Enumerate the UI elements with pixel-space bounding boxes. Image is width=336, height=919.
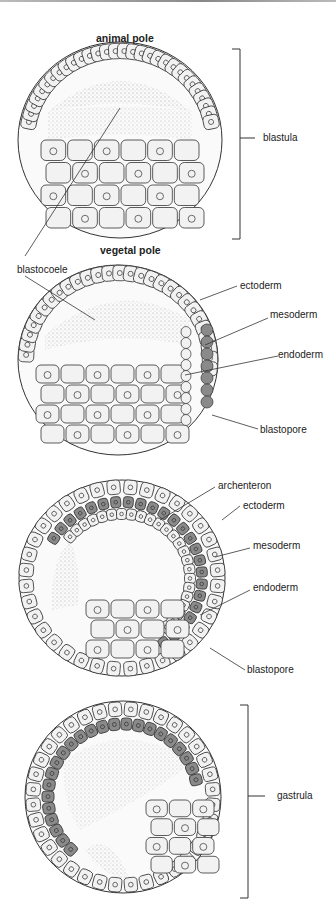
ectoderm-cell (26, 782, 41, 796)
vegetal-cell (161, 365, 184, 383)
vegetal-cell (153, 163, 178, 184)
endoderm-cell (181, 327, 191, 338)
mesoderm-cell (201, 348, 213, 360)
endoderm-cell (181, 360, 191, 371)
cell-membrane (189, 773, 203, 787)
yolk-cell (161, 640, 184, 658)
vegetal-cell (91, 425, 114, 443)
cell-membrane (124, 702, 138, 717)
mesoderm-cell (201, 324, 213, 336)
cell-membrane (202, 114, 220, 131)
ectoderm-cell (124, 877, 138, 892)
yolk-cell (193, 838, 214, 855)
mesoderm-cell (121, 718, 133, 731)
cell-membrane (42, 802, 56, 815)
cell-membrane (107, 661, 121, 676)
endoderm-cell (181, 404, 191, 415)
mesoderm-cell (123, 496, 134, 508)
vegetal-cell (36, 405, 59, 423)
cell-membrane (117, 508, 127, 519)
vegetal-cell (46, 163, 71, 184)
blastocoele-label: blastocoele (17, 265, 68, 275)
mesoderm-cell (97, 498, 109, 511)
cell-membrane (106, 509, 118, 521)
mesoderm-cell (42, 791, 54, 802)
mesoderm-cell (135, 498, 147, 511)
ectoderm-cell (123, 661, 137, 676)
endoderm-label-1: endoderm (278, 350, 323, 360)
cell-membrane (205, 782, 220, 796)
cell-membrane (108, 877, 122, 892)
yolk-cell (166, 620, 189, 638)
vegetal-cell (174, 185, 199, 206)
vegetal-cell (73, 208, 98, 229)
yolk-cell (136, 640, 159, 658)
mesoderm-cell (110, 496, 121, 508)
vegetal-cell (121, 140, 146, 161)
vegetal-cell (41, 140, 66, 161)
cell-membrane (42, 778, 56, 791)
vegetal-pole-label: vegetal pole (100, 245, 161, 256)
vegetal-cell (148, 185, 173, 206)
blastopore-leader-1 (212, 415, 258, 429)
ectoderm-leader-1 (200, 286, 237, 300)
vegetal-cell (179, 208, 204, 229)
yolk-cell (198, 856, 219, 873)
ectoderm-label-2: ectoderm (243, 501, 285, 511)
yolk-cell (116, 620, 139, 638)
mesoderm-cell (201, 372, 213, 384)
mesoderm-cell (42, 778, 56, 791)
vegetal-cell (36, 365, 59, 383)
blastula-bracket (232, 49, 255, 239)
animal-pole-label: animal pole (96, 33, 154, 44)
vegetal-cell (136, 405, 159, 423)
mesoderm-cell (42, 802, 56, 815)
yolk-cell (146, 800, 167, 817)
vegetal-cell (94, 140, 119, 161)
vegetal-cell (91, 385, 114, 403)
vegetal-cell (141, 425, 164, 443)
vegetal-cell (179, 163, 204, 184)
mesoderm-leader-1 (205, 318, 268, 345)
cell-membrane (196, 579, 208, 590)
yolk-cell (86, 640, 109, 658)
vegetal-cell (66, 425, 89, 443)
cell-membrane (124, 877, 138, 892)
vegetal-cell (86, 405, 109, 423)
blastopore-leader-2 (210, 648, 245, 670)
endoderm-cell (181, 393, 191, 404)
yolk-cell (111, 600, 134, 618)
vegetal-cell (161, 405, 184, 423)
vegetal-cell (126, 163, 151, 184)
mesoderm-cell (196, 579, 208, 590)
gastrula-label: gastrula (277, 791, 313, 801)
mesoderm-cell (201, 384, 213, 396)
ectoderm-cell (19, 563, 34, 577)
mesoderm-cell (108, 718, 120, 731)
vegetal-cell (94, 185, 119, 206)
cell-membrane (123, 661, 137, 676)
vegetal-cell (111, 405, 134, 423)
ectoderm-label-1: ectoderm (240, 281, 282, 291)
animal-cell (202, 114, 220, 131)
vegetal-cell (68, 185, 93, 206)
blastula-label: blastula (263, 133, 297, 143)
yolk-cell (169, 838, 190, 855)
gastrula-bracket (240, 705, 265, 898)
yolk-cell (151, 819, 172, 836)
cell-membrane (193, 554, 206, 566)
cell-membrane (108, 718, 120, 731)
yolk-cell (169, 800, 190, 817)
endoderm-cell (181, 382, 191, 393)
cell-membrane (19, 563, 34, 577)
cell-membrane (210, 563, 225, 577)
endoderm-cell (181, 338, 191, 349)
yolk-cell (86, 600, 109, 618)
endoderm-cell (181, 415, 191, 426)
vegetal-cell (41, 425, 64, 443)
yolk-cell (174, 819, 195, 836)
ectoderm-cell (107, 480, 121, 495)
mesoderm-label-1: mesoderm (270, 310, 317, 320)
vegetal-cell (99, 208, 124, 229)
ectoderm-cell (210, 579, 225, 593)
